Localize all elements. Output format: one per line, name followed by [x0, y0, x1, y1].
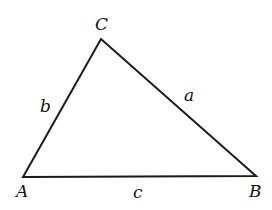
vertex-label-b: B [248, 181, 262, 201]
vertex-label-c: C [95, 14, 108, 34]
triangle-diagram: C A B a b c [0, 0, 272, 210]
side-label-a: a [184, 85, 194, 105]
vertex-label-a: A [14, 181, 28, 201]
triangle-svg: C A B a b c [0, 0, 272, 210]
side-label-b: b [40, 96, 51, 116]
side-label-c: c [133, 182, 143, 202]
triangle-abc [23, 39, 256, 177]
